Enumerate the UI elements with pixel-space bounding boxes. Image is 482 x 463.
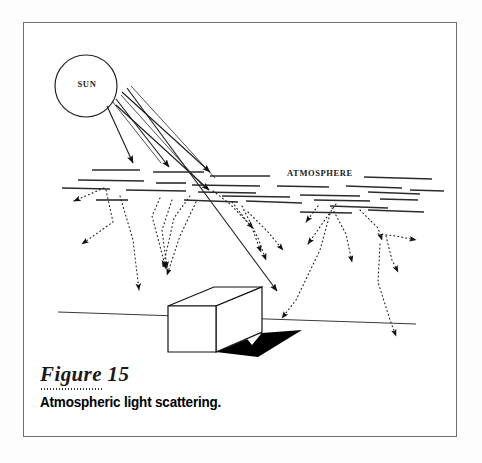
sun-label: SUN	[55, 79, 119, 89]
figure-page: SUN ATMOSPHERE Figure 15 Atmospheric lig…	[0, 0, 482, 463]
figure-caption: Atmospheric light scattering.	[40, 394, 347, 410]
atmosphere-label: ATMOSPHERE	[287, 168, 353, 178]
figure-number: Figure 15	[40, 362, 370, 386]
caption-rule	[40, 388, 102, 390]
figure-caption-block: Figure 15 Atmospheric light scattering.	[40, 362, 370, 410]
